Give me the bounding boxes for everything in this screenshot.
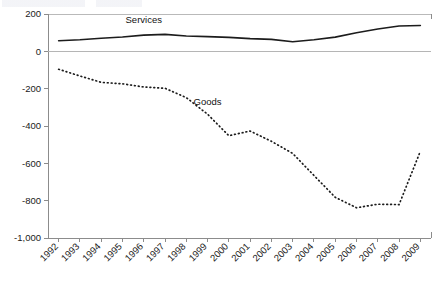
x-tick-label: 1993 (59, 241, 82, 264)
x-tick-label: 2002 (250, 241, 273, 264)
x-tick-label: 1999 (186, 241, 209, 264)
y-tick-label: -1,000 (14, 232, 41, 243)
series-label-goods: Goods (194, 96, 222, 107)
x-tick-label: 1997 (144, 241, 167, 264)
line-chart: 2000-200-400-600-800-1,00019921993199419… (0, 0, 441, 284)
x-tick-label: 2003 (271, 241, 294, 264)
x-tick-label: 1992 (37, 241, 60, 264)
series-label-services: Services (126, 14, 163, 25)
x-tick-label: 2004 (293, 241, 316, 264)
x-tick-label: 2008 (378, 241, 401, 264)
series-line-services (59, 26, 421, 42)
x-tick-label: 1994 (80, 241, 103, 264)
x-tick-label: 2006 (335, 241, 358, 264)
x-tick-label: 2000 (208, 241, 231, 264)
faint-title-artifact (2, 0, 182, 7)
x-tick-label: 2005 (314, 241, 337, 264)
x-tick-label: 2001 (229, 241, 252, 264)
series-line-goods (59, 69, 421, 208)
x-tick-label: 1996 (122, 241, 145, 264)
x-tick-label: 1998 (165, 241, 188, 264)
y-tick-label: -400 (22, 120, 41, 131)
chart-container: 2000-200-400-600-800-1,00019921993199419… (0, 0, 441, 284)
y-tick-label: -200 (22, 83, 41, 94)
x-tick-label: 2009 (399, 241, 422, 264)
x-tick-label: 1995 (101, 241, 124, 264)
y-tick-label: 0 (36, 46, 41, 57)
y-tick-label: -800 (22, 195, 41, 206)
x-tick-label: 2007 (356, 241, 379, 264)
y-tick-label: -600 (22, 158, 41, 169)
y-tick-label: 200 (25, 8, 41, 19)
